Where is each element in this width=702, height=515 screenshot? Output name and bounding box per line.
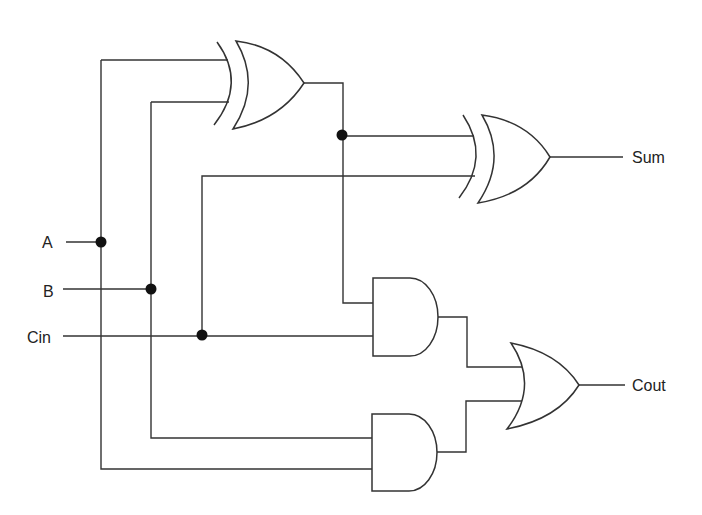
input-label-b: B — [43, 283, 54, 300]
full-adder-circuit: A B Cin Sum Cout — [0, 0, 702, 515]
output-label-cout: Cout — [632, 377, 666, 394]
junction-b — [146, 284, 157, 295]
xor-gate-2 — [459, 115, 550, 203]
wire-xor1-out — [304, 83, 474, 303]
xor-gate-1 — [214, 41, 304, 129]
and-gate-1 — [373, 278, 438, 356]
junction-xor1-out — [337, 130, 348, 141]
input-label-a: A — [42, 234, 53, 251]
or-gate — [507, 343, 579, 429]
and-gate-2 — [372, 414, 437, 491]
junction-cin — [197, 330, 208, 341]
junction-a — [96, 237, 107, 248]
input-label-cin: Cin — [27, 329, 51, 346]
wire-a — [66, 60, 373, 469]
wire-and1-out — [438, 317, 524, 367]
wire-b — [63, 102, 373, 438]
output-label-sum: Sum — [632, 149, 665, 166]
